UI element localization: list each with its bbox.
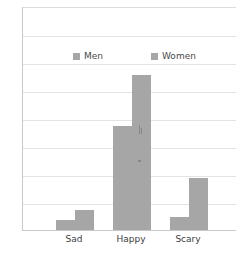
scan-artifact <box>139 125 140 134</box>
bar-happy-women[interactable] <box>132 75 151 230</box>
bar-sad-women[interactable] <box>75 210 94 230</box>
x-tick-label-sad: Sad <box>44 234 104 245</box>
bar-sad-men[interactable] <box>56 220 75 230</box>
bar-chart: 16 14 12 10 8 6 4 2 0 <box>0 0 240 254</box>
x-tick-label-scary: Scary <box>158 234 218 245</box>
x-tick-label-happy: Happy <box>101 234 161 245</box>
bar-scary-women[interactable] <box>189 178 208 230</box>
scan-artifact <box>138 160 141 162</box>
bar-scary-men[interactable] <box>170 217 189 230</box>
x-axis: Sad Happy Scary <box>22 234 236 250</box>
scan-artifact <box>141 128 142 134</box>
plot-area: Men Women <box>22 7 236 231</box>
bars-layer <box>23 8 236 231</box>
y-axis: 16 14 12 10 8 6 4 2 0 <box>0 0 18 254</box>
bar-happy-men[interactable] <box>113 126 132 230</box>
